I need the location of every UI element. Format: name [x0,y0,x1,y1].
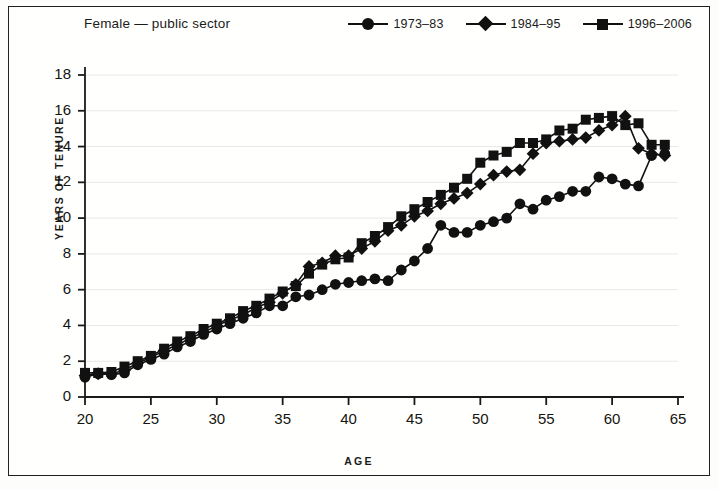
data-point [579,131,592,144]
y-tick-label: 2 [37,351,71,368]
data-point [304,290,315,301]
data-point [146,351,156,361]
y-tick-label: 8 [37,244,71,261]
data-point [422,243,433,254]
x-axis-title: AGE [0,455,718,467]
data-point [370,274,381,285]
data-point [172,337,182,347]
data-point [291,281,301,291]
data-point [409,256,420,267]
data-point [330,254,340,264]
data-point [106,367,116,377]
figure: Female — public sector 1973–83 1984–95 1… [0,0,718,490]
data-point [344,253,354,263]
data-point [317,284,328,295]
x-tick-label: 50 [460,410,500,427]
data-point [475,220,486,231]
x-tick-label: 25 [131,410,171,427]
data-point [647,140,657,150]
data-point [502,147,512,157]
data-point [554,126,564,136]
data-point [554,191,565,202]
data-point [409,204,419,214]
data-point [238,306,248,316]
data-point [593,124,606,137]
y-tick-label: 14 [37,137,71,154]
data-point [632,142,645,155]
data-point [528,204,539,215]
data-point [383,275,394,286]
data-point [489,151,499,161]
data-point [660,140,670,150]
y-tick-label: 10 [37,208,71,225]
data-point [343,277,354,288]
data-point [501,213,512,224]
plot-area: YEARS OF TENURE AGE 02468101214161820253… [0,0,718,490]
y-tick-label: 0 [37,387,71,404]
data-point [462,227,473,238]
data-point [515,138,525,148]
data-point [607,111,617,121]
data-point [620,179,631,190]
data-point [448,192,461,205]
data-point [212,319,222,329]
data-point [581,115,591,125]
x-tick-label: 60 [592,410,632,427]
data-point [607,173,618,184]
data-point [436,190,446,200]
data-point [568,124,578,134]
data-point [278,287,288,297]
data-point [435,220,446,231]
data-point [475,158,485,168]
data-point [566,133,579,146]
data-point [290,291,301,302]
data-point [383,222,393,232]
y-tick-label: 6 [37,280,71,297]
data-point [594,113,604,123]
data-point [474,178,487,191]
data-point [488,216,499,227]
data-point [541,195,552,206]
data-point [515,198,526,209]
data-point [80,368,90,378]
data-point [265,294,275,304]
data-point [423,197,433,207]
data-point [199,324,209,334]
data-point [133,356,143,366]
x-tick-label: 45 [394,410,434,427]
data-point [634,118,644,128]
data-point [449,227,460,238]
y-tick-label: 4 [37,315,71,332]
y-tick-label: 12 [37,172,71,189]
data-point [317,260,327,270]
data-point [185,331,195,341]
x-tick-label: 20 [65,410,105,427]
x-tick-label: 65 [658,410,698,427]
data-point [528,138,538,148]
data-point [500,165,513,178]
data-point [594,172,605,183]
data-point [633,181,644,192]
x-tick-label: 35 [263,410,303,427]
x-tick-label: 55 [526,410,566,427]
data-point [225,313,235,323]
data-point [251,301,261,311]
data-point [580,186,591,197]
x-tick-label: 40 [329,410,369,427]
series-diamond [79,110,672,382]
y-tick-label: 16 [37,101,71,118]
data-point [304,269,314,279]
data-point [396,265,407,276]
data-point [449,183,459,193]
data-point [357,238,367,248]
data-point [159,344,169,354]
data-point [277,300,288,311]
data-point [541,134,551,144]
data-point [396,211,406,221]
data-point [462,174,472,184]
y-tick-label: 18 [37,65,71,82]
data-point [330,279,341,290]
data-point [120,362,130,372]
data-point [370,231,380,241]
data-point [567,186,578,197]
